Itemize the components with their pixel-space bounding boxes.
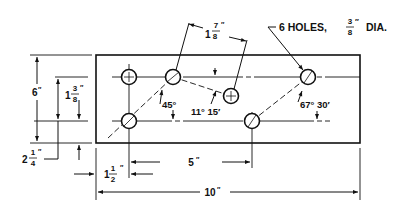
svg-text:″: ″ bbox=[355, 17, 359, 26]
svg-text:″: ″ bbox=[38, 148, 42, 155]
svg-text:1: 1 bbox=[65, 90, 71, 101]
svg-text:8: 8 bbox=[73, 95, 78, 104]
svg-text:DIA.: DIA. bbox=[366, 21, 387, 33]
svg-text:″: ″ bbox=[196, 156, 200, 163]
dim-hole-spacing: 5 ″ bbox=[188, 156, 200, 168]
svg-text:8: 8 bbox=[348, 28, 353, 37]
svg-text:1: 1 bbox=[205, 29, 211, 40]
holes bbox=[122, 70, 316, 129]
dim-left-offset: 1 1 2 ″ bbox=[104, 164, 124, 184]
angle-11-15: 11° 15′ bbox=[191, 106, 221, 117]
svg-text:1: 1 bbox=[31, 148, 36, 157]
svg-text:″: ″ bbox=[217, 186, 221, 193]
svg-text:2: 2 bbox=[111, 175, 116, 184]
svg-text:10: 10 bbox=[204, 187, 216, 198]
svg-text:″: ″ bbox=[120, 164, 124, 171]
technical-drawing: 6 HOLES, 3 8 ″ DIA. 6 ″ 1 3 8 ″ 2 1 4 ″ … bbox=[0, 0, 407, 209]
hole-5 bbox=[122, 114, 137, 129]
svg-text:4: 4 bbox=[31, 159, 36, 168]
hole-3 bbox=[224, 89, 239, 104]
svg-text:″: ″ bbox=[221, 21, 225, 28]
angle-67-30: 67° 30′ bbox=[300, 99, 331, 110]
dim-bottom-offset: 2 1 4 ″ bbox=[22, 148, 42, 168]
svg-text:″: ″ bbox=[38, 86, 42, 93]
angle-45: 45° bbox=[162, 99, 177, 110]
dim-overall-height: 6 ″ bbox=[32, 86, 42, 98]
dim-overall-length: 10 ″ bbox=[204, 186, 221, 198]
svg-text:8: 8 bbox=[213, 32, 218, 41]
svg-text:1: 1 bbox=[104, 169, 110, 180]
svg-text:3: 3 bbox=[73, 84, 78, 93]
svg-text:″: ″ bbox=[80, 84, 84, 91]
svg-text:7: 7 bbox=[214, 21, 219, 30]
svg-text:2: 2 bbox=[22, 154, 28, 165]
dim-diagonal-distance: 1 7 8 ″ bbox=[205, 21, 225, 41]
svg-text:6 HOLES,: 6 HOLES, bbox=[279, 21, 327, 33]
hole-2 bbox=[166, 70, 181, 85]
svg-text:3: 3 bbox=[348, 17, 353, 26]
dim-hole-row-spacing: 1 3 8 ″ bbox=[65, 84, 84, 104]
svg-text:1: 1 bbox=[111, 164, 116, 173]
holes-callout: 6 HOLES, 3 8 ″ DIA. bbox=[279, 17, 387, 37]
hole-1 bbox=[122, 70, 137, 85]
hole-4 bbox=[301, 70, 316, 85]
hole-6 bbox=[245, 114, 260, 129]
svg-text:5: 5 bbox=[188, 157, 194, 168]
